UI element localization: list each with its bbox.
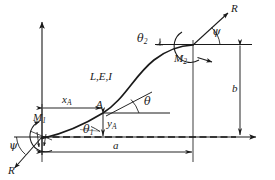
m2-subscript: 2 [183,57,187,66]
point-a-label: A [96,99,103,110]
theta2-subscript: 2 [144,37,148,46]
beam-elastica-curve [42,45,193,139]
theta-label: θ [144,96,151,107]
theta1-label: θ1 [83,124,93,136]
theta1-glyph: θ [83,123,90,136]
theta2-label: θ2 [137,33,147,45]
theta2-angle-bracket [157,39,164,46]
material-properties-label: L,E,I [90,71,112,82]
psi-right-label: ψ [212,26,221,37]
force-r-right [193,13,228,45]
dimension-ya-label: yA [107,118,116,130]
beam-diagram: L,E,I A θ θ1 θ2 M1 M2 ψ ψ R R xA yA a b [0,0,275,180]
dimension-a-label: a [113,140,119,151]
moment-m2-label: M2 [174,53,187,65]
psi-left-label: ψ [9,140,18,151]
force-r-left-label: R [8,165,15,176]
theta2-glyph: θ [137,32,144,45]
m2-glyph: M [174,52,183,64]
moment-m1-label: M1 [33,112,46,124]
xa-subscript: A [67,98,72,107]
m1-glyph: M [33,111,42,123]
theta1-subscript: 1 [90,128,94,137]
force-r-right-label: R [231,3,238,14]
m1-subscript: 1 [42,116,46,125]
dimension-xa-label: xA [62,94,71,106]
ya-subscript: A [112,122,117,131]
dimension-b-label: b [232,83,238,94]
